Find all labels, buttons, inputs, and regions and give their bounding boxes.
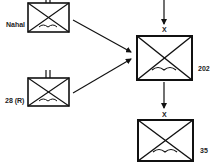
echelon-label-202: X [162, 26, 167, 33]
unit-label-28r: 28 (R) [5, 97, 24, 104]
unit-28r [28, 70, 69, 106]
unit-35 [138, 120, 193, 161]
arrow-nahal-to-202 [73, 20, 131, 52]
airborne-icon [153, 150, 177, 153]
unit-202 [137, 36, 192, 80]
unit-nahal [28, 0, 69, 32]
airborne-icon [152, 68, 176, 71]
unit-label-35: 35 [200, 147, 208, 154]
arrow-28r-to-202 [73, 59, 131, 93]
unit-label-202: 202 [198, 65, 210, 72]
unit-hierarchy-diagram [0, 0, 216, 162]
airborne-icon [39, 99, 57, 101]
unit-label-nahal: Nahal [6, 21, 25, 28]
echelon-label-35: X [162, 111, 167, 118]
airborne-icon [39, 25, 57, 27]
